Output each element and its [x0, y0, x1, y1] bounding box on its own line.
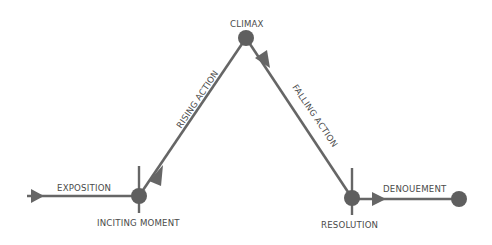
arrow-icon	[149, 165, 163, 186]
climax-label: CLIMAX	[230, 19, 264, 29]
arrow-icon	[372, 192, 386, 206]
rising-action-label: RISING ACTION	[174, 68, 220, 130]
inciting-moment-node	[131, 188, 147, 204]
denouement-label: DENOUEMENT	[383, 184, 447, 194]
exposition-label: EXPOSITION	[57, 183, 111, 193]
climax-node	[238, 30, 254, 46]
resolution-node	[344, 190, 360, 206]
inciting-moment-label: INCITING MOMENT	[97, 218, 180, 228]
rising-action-line	[139, 38, 246, 196]
plot-diagram: EXPOSITION INCITING MOMENT CLIMAX RISING…	[0, 0, 492, 245]
end-node	[451, 191, 467, 207]
resolution-label: RESOLUTION	[321, 220, 378, 230]
arrow-icon	[31, 189, 44, 203]
